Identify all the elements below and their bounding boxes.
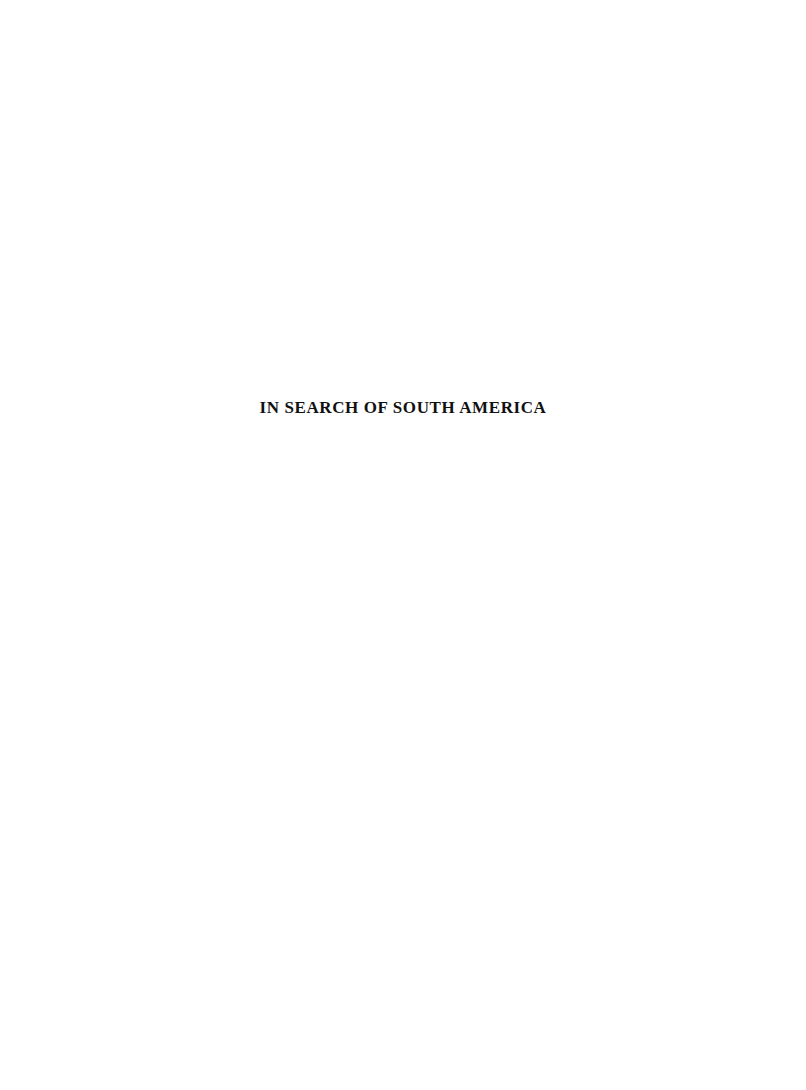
book-title: IN SEARCH OF SOUTH AMERICA: [0, 398, 806, 418]
book-page: IN SEARCH OF SOUTH AMERICA: [0, 0, 806, 1090]
